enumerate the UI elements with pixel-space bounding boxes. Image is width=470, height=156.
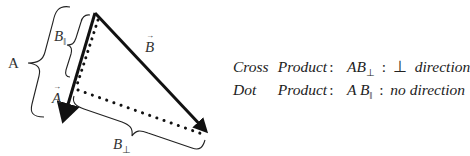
formula-word2: Product — [278, 81, 327, 98]
b-parallel-dotted — [76, 20, 98, 88]
formula-result-text: no direction — [390, 81, 465, 98]
formula-term-base: A B — [347, 81, 370, 98]
vector-projection-diagram — [0, 0, 230, 156]
formula-term-sub: ⊥ — [366, 67, 375, 78]
formula-colon2: : — [382, 58, 386, 75]
formula-colon: : — [329, 58, 333, 75]
formula-result-text: direction — [415, 58, 470, 75]
formula-word1: Dot — [233, 82, 266, 98]
formula-term: AB⊥ — [347, 58, 375, 75]
label-vector-b: B — [145, 40, 154, 55]
brace-a — [28, 7, 70, 117]
label-b-parallel: B‖ — [54, 29, 66, 47]
formula-term-sub: ‖ — [369, 90, 372, 101]
vector-a-arrow — [64, 13, 95, 118]
formula-result-symbol: ⊥ — [393, 58, 407, 75]
formula-colon: : — [329, 81, 333, 98]
formula-word1: Cross — [233, 59, 266, 75]
formula-word2: Product — [278, 58, 327, 75]
formula-colon2: : — [379, 81, 383, 98]
b-perp-dotted — [78, 90, 205, 135]
label-vector-a: A — [52, 91, 61, 106]
label-a-magnitude: A — [8, 56, 19, 71]
formula-dot-product: Dot Product: A B‖ : no direction — [233, 82, 465, 101]
label-b-perp-base: B — [113, 136, 122, 152]
formula-cross-product: Cross Product: AB⊥ : ⊥ direction — [233, 59, 470, 78]
label-b-parallel-base: B — [54, 28, 63, 44]
formula-term-base: AB — [347, 58, 366, 75]
label-b-perp-sub: ⊥ — [122, 144, 131, 155]
vector-b-symbol: B — [145, 40, 154, 55]
brace-b-perp — [73, 96, 205, 149]
label-b-parallel-sub: ‖ — [63, 36, 66, 47]
label-b-perp: B⊥ — [113, 137, 131, 155]
vector-a-symbol: A — [52, 91, 61, 106]
formula-term: A B‖ — [347, 81, 372, 98]
